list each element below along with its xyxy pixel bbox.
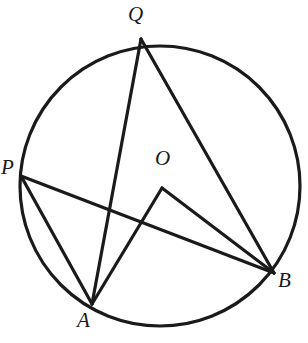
circle-group [20, 46, 300, 326]
vertex-label-q: Q [128, 4, 143, 25]
geometry-canvas [0, 0, 308, 343]
segment-PB [21, 176, 274, 273]
vertex-label-a: A [77, 310, 90, 331]
vertex-label-b: B [278, 270, 291, 291]
segment-OB [162, 188, 274, 273]
vertex-label-p: P [1, 157, 14, 178]
main-circle [20, 46, 300, 326]
geometry-figure: Q P O B A [0, 0, 308, 343]
segments-group [21, 39, 274, 304]
vertex-label-o: O [155, 148, 170, 169]
